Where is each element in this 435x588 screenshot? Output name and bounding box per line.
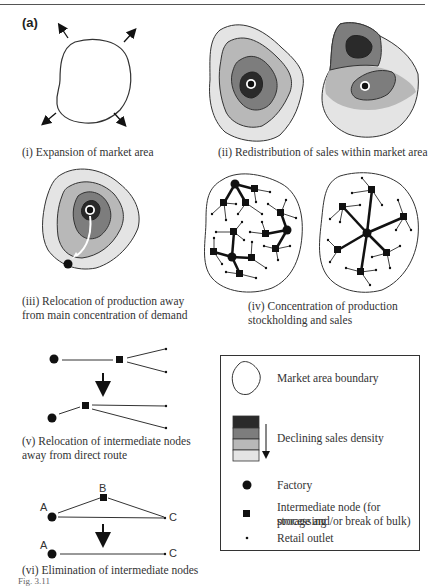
node-label-c: C: [169, 510, 177, 524]
expansion-arrow-ne: [124, 31, 134, 42]
caption-iv-line1: (iv) Concentration of production: [248, 299, 398, 313]
factory-symbol-icon: [243, 481, 252, 490]
panel-v-relocation: [48, 348, 168, 429]
legend-label-factory: Factory: [277, 478, 312, 492]
caption-i: (i) Expansion of market area: [22, 145, 154, 159]
caption-iv-line2: stockholding and sales: [248, 313, 352, 327]
intermediate-node-icon: [243, 510, 250, 517]
panel-i-expansion: [44, 26, 134, 124]
relocated-factory-icon: [64, 260, 73, 269]
boundary-outline-icon: [232, 362, 260, 395]
panel-ii-right-map: [322, 23, 418, 137]
market-boundary-shape: [57, 39, 131, 123]
retail-outlet-icon: [246, 537, 249, 540]
figure-number: Fig. 3.11: [18, 576, 50, 586]
panel-vi-elimination: [48, 494, 167, 559]
legend-label-node-line2: storage and/or break of bulk): [277, 514, 410, 528]
panel-ii-left-map: [210, 25, 304, 141]
node-label-a: A: [40, 538, 47, 552]
node-label-b: B: [99, 481, 106, 495]
legend-label-boundary: Market area boundary: [277, 371, 379, 385]
caption-vi: (vi) Elimination of intermediate nodes: [22, 563, 198, 577]
caption-iii-line2: from main concentration of demand: [22, 308, 187, 322]
legend-label-retail: Retail outlet: [277, 531, 334, 545]
legend-box: Market area boundary Declining sales den…: [220, 355, 420, 551]
node-label-a: A: [40, 500, 47, 514]
caption-ii: (ii) Redistribution of sales within mark…: [218, 145, 428, 159]
panel-iii-relocation: [43, 169, 140, 269]
factory-icon: [362, 83, 368, 89]
expansion-arrow-nw: [60, 26, 68, 38]
panel-iv-left-network: [205, 174, 303, 292]
node-label-c: C: [169, 546, 177, 560]
caption-iii-line1: (iii) Relocation of production away: [22, 294, 184, 308]
legend-label-density: Declining sales density: [277, 431, 384, 445]
caption-v-line2: away from direct route: [22, 448, 127, 462]
panel-iv-right-network: [320, 173, 419, 293]
factory-icon: [248, 81, 254, 87]
expansion-arrow-sw: [44, 113, 56, 123]
density-scale-icon: [233, 416, 259, 461]
expansion-arrow-se: [114, 113, 124, 124]
caption-v-line1: (v) Relocation of intermediate nodes: [22, 434, 191, 448]
